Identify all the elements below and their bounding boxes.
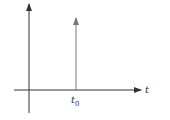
t-axis-label: t	[145, 84, 150, 95]
impulse-diagram: t t0	[0, 0, 170, 120]
t0-label: t0	[71, 94, 80, 108]
